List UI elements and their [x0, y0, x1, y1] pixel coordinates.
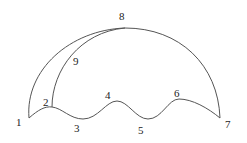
label-point-4: 4	[105, 89, 111, 101]
outer-arc	[29, 28, 220, 118]
diagram-svg: 1 2 3 4 5 6 7 8 9	[0, 0, 247, 143]
label-point-9: 9	[73, 55, 79, 67]
label-point-8: 8	[119, 10, 125, 22]
label-point-6: 6	[174, 87, 180, 99]
label-point-2: 2	[43, 96, 49, 108]
label-point-7: 7	[225, 118, 231, 130]
diagram-canvas: 1 2 3 4 5 6 7 8 9	[0, 0, 247, 143]
label-point-1: 1	[16, 116, 22, 128]
wavy-base	[29, 99, 220, 119]
inner-arc	[52, 28, 125, 107]
label-point-5: 5	[138, 124, 144, 136]
label-point-3: 3	[74, 122, 80, 134]
